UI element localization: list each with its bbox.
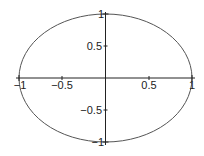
y-tick-label-neg05: −0.5 <box>80 104 102 116</box>
y-tick-label-pos05: 0.5 <box>87 40 102 52</box>
circle-plot: −1 −0.5 0.5 1 1 0.5 −0.5 −1 <box>0 0 204 156</box>
x-tick-label-pos1: 1 <box>189 79 195 91</box>
x-tick-label-neg1: −1 <box>14 79 27 91</box>
y-tick-label-pos1: 1 <box>98 8 104 20</box>
y-tick-label-neg1: −1 <box>91 136 104 148</box>
x-tick-label-pos05: 0.5 <box>141 79 156 91</box>
x-tick-label-neg05: −0.5 <box>51 79 73 91</box>
